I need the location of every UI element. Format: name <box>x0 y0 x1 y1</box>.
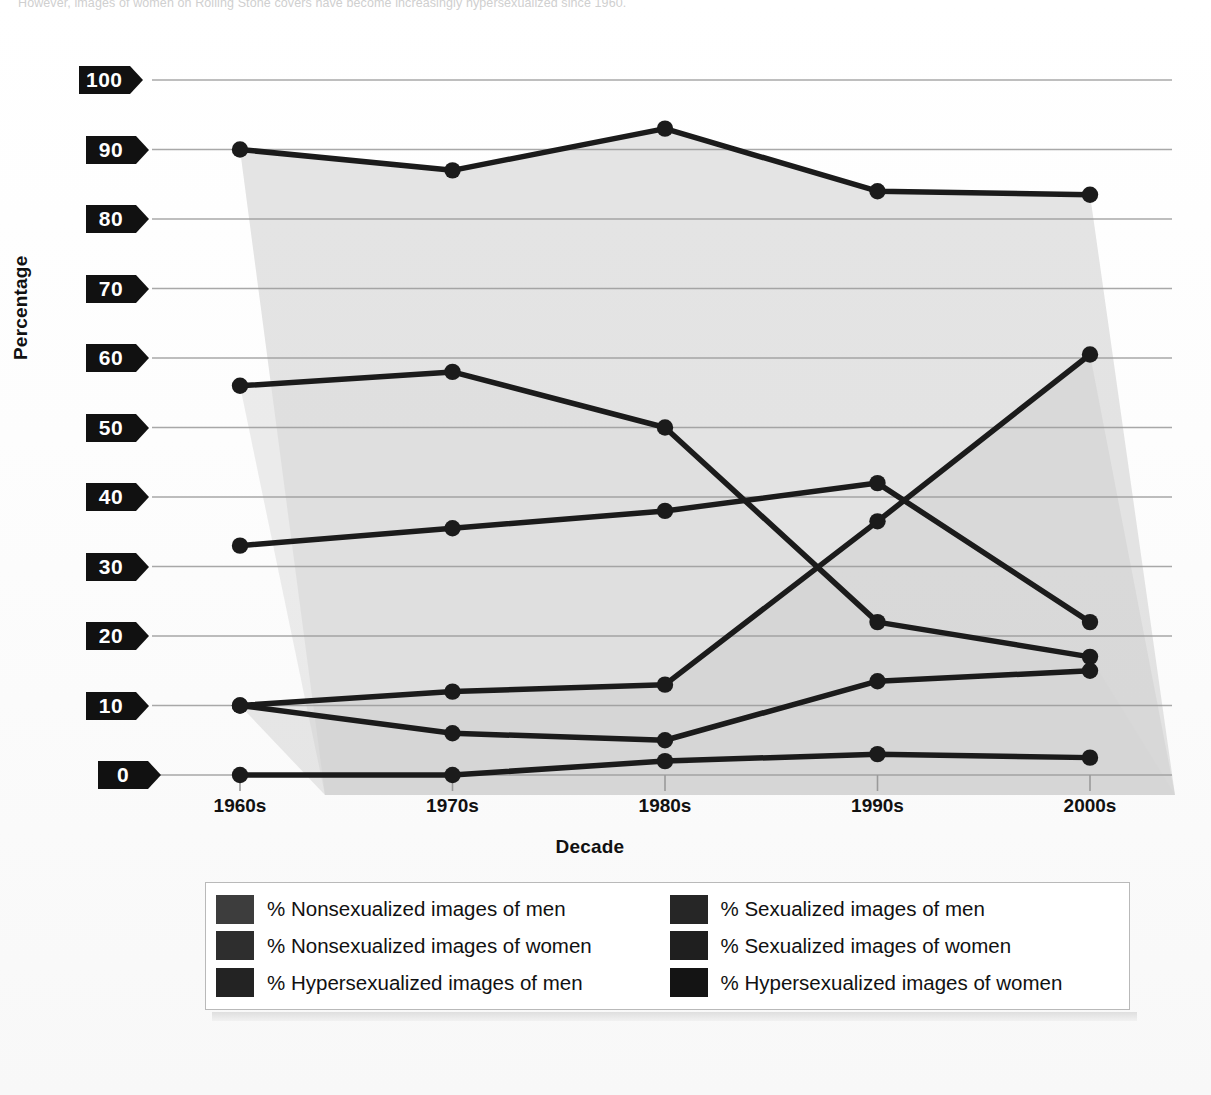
data-point-marker <box>657 753 673 769</box>
y-axis-tick-tag: 100 <box>79 66 143 94</box>
data-point-marker <box>657 676 673 692</box>
x-axis-tick-label: 2000s <box>1064 795 1117 817</box>
y-axis-tick-tag: 50 <box>86 414 149 442</box>
data-point-marker <box>232 697 248 713</box>
data-point-marker <box>869 673 885 689</box>
legend-label: % Hypersexualized images of women <box>721 971 1063 995</box>
y-axis-tick-tag: 60 <box>86 344 149 372</box>
tag-arrow-icon <box>136 205 149 233</box>
y-axis-tick-value: 60 <box>86 344 136 372</box>
y-axis-tick-value: 10 <box>86 692 136 720</box>
data-point-marker <box>657 120 673 136</box>
y-axis-tick-tag: 80 <box>86 205 149 233</box>
y-axis-tick-tag: 40 <box>86 483 149 511</box>
y-axis-tick-value: 40 <box>86 483 136 511</box>
data-point-marker <box>869 475 885 491</box>
x-axis-tick-label: 1990s <box>851 795 904 817</box>
y-axis-tick-tag: 70 <box>86 275 149 303</box>
data-point-marker <box>232 767 248 783</box>
tag-arrow-icon <box>130 66 143 94</box>
tag-arrow-icon <box>136 136 149 164</box>
y-axis-tick-value: 0 <box>98 761 148 789</box>
y-axis-tick-tag: 10 <box>86 692 149 720</box>
y-axis-tick-value: 50 <box>86 414 136 442</box>
x-axis-tick-label: 1960s <box>214 795 267 817</box>
data-point-marker <box>1082 186 1098 202</box>
tag-arrow-icon <box>136 553 149 581</box>
tag-arrow-icon <box>136 275 149 303</box>
data-point-marker <box>1082 749 1098 765</box>
data-point-marker <box>869 614 885 630</box>
legend-label: % Sexualized images of women <box>721 934 1012 958</box>
tag-arrow-icon <box>136 344 149 372</box>
legend-swatch-icon <box>670 895 708 924</box>
y-axis-tick-tag: 30 <box>86 553 149 581</box>
legend-label: % Hypersexualized images of men <box>267 971 583 995</box>
tag-arrow-icon <box>136 692 149 720</box>
data-point-marker <box>444 520 460 536</box>
data-point-marker <box>1082 346 1098 362</box>
data-point-marker <box>232 537 248 553</box>
y-axis-tick-value: 80 <box>86 205 136 233</box>
legend-swatch-icon <box>670 931 708 960</box>
tag-arrow-icon <box>148 761 161 789</box>
legend-sexualized-women[interactable]: % Sexualized images of women <box>670 928 1124 965</box>
legend-sexualized-men[interactable]: % Sexualized images of men <box>670 891 1124 928</box>
legend-swatch-icon <box>670 968 708 997</box>
x-axis-tick-label: 1980s <box>639 795 692 817</box>
x-axis-tick-label: 1970s <box>426 795 479 817</box>
legend-drop-shadow <box>212 1012 1137 1021</box>
data-point-marker <box>232 141 248 157</box>
legend-hypersexualized-men[interactable]: % Hypersexualized images of men <box>216 964 670 1001</box>
data-point-marker <box>657 419 673 435</box>
x-axis-title: Decade <box>0 836 1180 858</box>
y-axis-tick-value: 30 <box>86 553 136 581</box>
data-point-marker <box>869 746 885 762</box>
data-point-marker <box>232 378 248 394</box>
legend-label: % Sexualized images of men <box>721 897 985 921</box>
data-point-marker <box>869 183 885 199</box>
y-axis-tick-value: 100 <box>79 66 130 94</box>
y-axis-tick-value: 20 <box>86 622 136 650</box>
data-point-marker <box>444 683 460 699</box>
tag-arrow-icon <box>136 414 149 442</box>
data-point-marker <box>444 364 460 380</box>
data-point-marker <box>1082 663 1098 679</box>
data-point-marker <box>1082 614 1098 630</box>
data-point-marker <box>444 767 460 783</box>
legend-nonsexualized-men[interactable]: % Nonsexualized images of men <box>216 891 670 928</box>
data-point-marker <box>444 725 460 741</box>
tag-arrow-icon <box>136 483 149 511</box>
y-axis-title: Percentage <box>10 256 32 360</box>
y-axis-tick-value: 70 <box>86 275 136 303</box>
legend-label: % Nonsexualized images of men <box>267 897 566 921</box>
legend-hypersexualized-women[interactable]: % Hypersexualized images of women <box>670 964 1124 1001</box>
y-axis-tick-tag: 20 <box>86 622 149 650</box>
data-point-marker <box>657 503 673 519</box>
y-axis-tick-value: 90 <box>86 136 136 164</box>
data-point-marker <box>657 732 673 748</box>
chart-legend: % Nonsexualized images of men% Sexualize… <box>205 882 1130 1010</box>
data-point-marker <box>869 513 885 529</box>
legend-swatch-icon <box>216 895 254 924</box>
data-point-marker <box>444 162 460 178</box>
legend-swatch-icon <box>216 968 254 997</box>
tag-arrow-icon <box>136 622 149 650</box>
y-axis-tick-tag: 90 <box>86 136 149 164</box>
y-axis-tick-tag: 0 <box>98 761 161 789</box>
legend-label: % Nonsexualized images of women <box>267 934 592 958</box>
legend-swatch-icon <box>216 931 254 960</box>
legend-nonsexualized-women[interactable]: % Nonsexualized images of women <box>216 928 670 965</box>
x-axis-tick-labels: 1960s1970s1980s1990s2000s <box>0 795 1211 821</box>
